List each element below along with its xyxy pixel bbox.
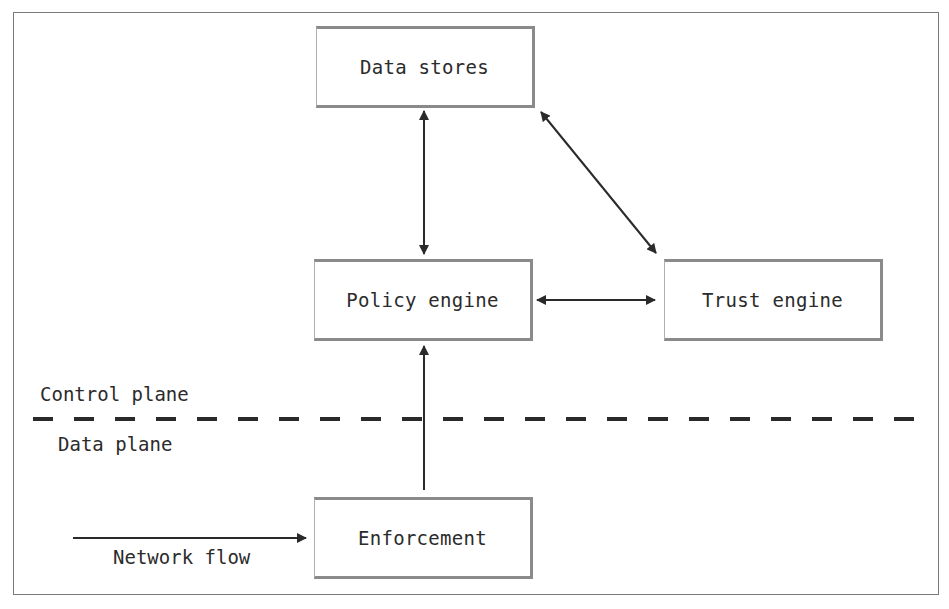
edge-datastores-trust [541,112,656,253]
node-enforcement-label: Enforcement [358,527,487,549]
node-enforcement[interactable]: Enforcement [314,497,533,579]
node-policy-engine[interactable]: Policy engine [314,259,533,341]
node-data-stores[interactable]: Data stores [316,26,535,108]
node-trust-engine[interactable]: Trust engine [664,259,883,341]
node-policy-engine-label: Policy engine [346,289,499,311]
node-data-stores-label: Data stores [360,56,489,78]
data-plane-label: Data plane [58,433,172,455]
control-plane-label: Control plane [40,383,189,405]
node-trust-engine-label: Trust engine [702,289,843,311]
network-flow-label: Network flow [113,546,250,568]
